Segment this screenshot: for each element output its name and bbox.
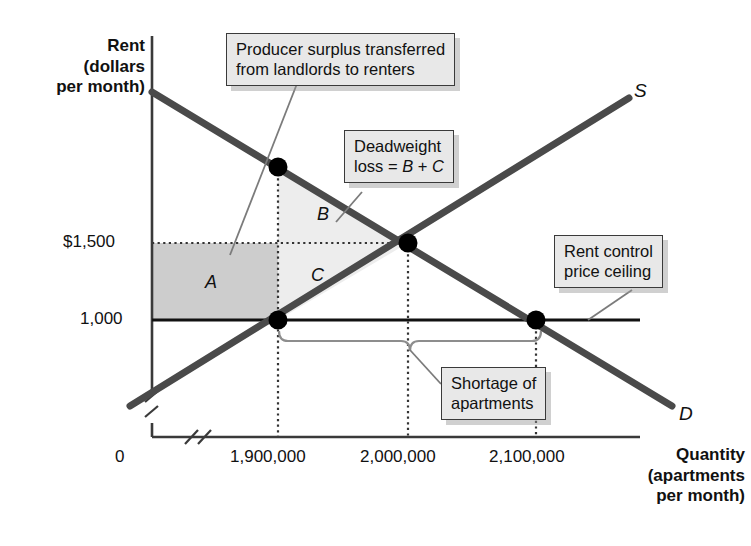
x-axis-title-line-3: per month): [565, 486, 745, 507]
callout-deadweight-loss-line-1: Deadweight: [354, 136, 444, 156]
y-axis-title-line-3: per month): [20, 77, 145, 98]
region-c-fill: [278, 243, 408, 320]
point-equilibrium: [399, 234, 418, 253]
curve-label-d: D: [679, 403, 693, 425]
callout-deadweight-loss: Deadweight loss = B + C: [344, 130, 454, 183]
callout-producer-surplus-line-2: from landlords to renters: [236, 59, 445, 79]
callout-rent-control-line-2: price ceiling: [564, 261, 653, 281]
callout-deadweight-loss-line-2: loss = B + C: [354, 156, 444, 176]
callout-shortage: Shortage of apartments: [441, 367, 546, 420]
x-axis-title-line-2: (apartments: [565, 466, 745, 487]
callout-shortage-line-2: apartments: [451, 393, 536, 413]
y-tick-1000: 1,000: [80, 309, 123, 329]
shortage-brace: [279, 331, 541, 351]
callout-producer-surplus-line-1: Producer surplus transferred: [236, 39, 445, 59]
x-tick-1900000: 1,900,000: [230, 447, 306, 467]
y-axis-title: Rent (dollars per month): [20, 36, 145, 98]
y-axis-title-line-1: Rent: [20, 36, 145, 57]
x-tick-2000000: 2,000,000: [360, 447, 436, 467]
leader-rent-control: [588, 290, 632, 320]
point-supply-ceiling: [269, 311, 288, 330]
point-demand-ceiling: [527, 311, 546, 330]
y-tick-1500: $1,500: [63, 232, 115, 252]
x-axis-title-line-1: Quantity: [565, 445, 745, 466]
y-axis-title-line-2: (dollars: [20, 57, 145, 78]
x-tick-2100000: 2,100,000: [489, 447, 565, 467]
leader-shortage: [410, 350, 441, 384]
callout-rent-control: Rent control price ceiling: [554, 235, 663, 288]
x-axis-title: Quantity (apartments per month): [565, 445, 745, 507]
x-tick-origin: 0: [115, 447, 124, 467]
point-demand-1900000: [269, 158, 288, 177]
callout-rent-control-line-1: Rent control: [564, 241, 653, 261]
callout-shortage-line-1: Shortage of: [451, 373, 536, 393]
curve-label-s: S: [634, 80, 647, 102]
figure-canvas: Rent (dollars per month) Quantity (apart…: [0, 0, 751, 546]
callout-producer-surplus: Producer surplus transferred from landlo…: [226, 33, 455, 86]
region-label-a: A: [205, 272, 217, 293]
region-label-b: B: [317, 204, 329, 225]
region-label-c: C: [311, 265, 324, 286]
